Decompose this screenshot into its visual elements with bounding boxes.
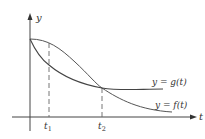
- curve-f: [30, 39, 172, 112]
- tick-label-t1: t1: [44, 121, 52, 133]
- x-axis-arrow-icon: [190, 115, 197, 120]
- y-axis-arrow-icon: [28, 13, 33, 20]
- curve-f-label: y = f(t): [154, 100, 188, 110]
- y-axis-label: y: [35, 12, 42, 23]
- x-axis-label: t: [199, 111, 204, 122]
- graph-canvas: y t y = g(t) y = f(t) t1 t2: [0, 0, 205, 139]
- function-graph-figure: y t y = g(t) y = f(t) t1 t2: [0, 0, 205, 139]
- curve-g: [30, 39, 163, 90]
- tick-label-t2: t2: [98, 121, 106, 133]
- curve-g-label: y = g(t): [151, 77, 187, 87]
